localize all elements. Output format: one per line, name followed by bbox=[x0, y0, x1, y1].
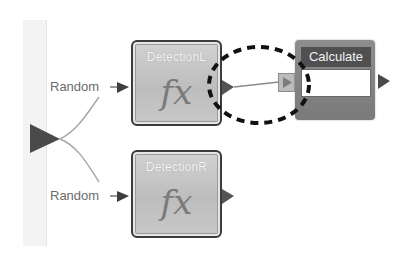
output-port-icon[interactable] bbox=[222, 189, 234, 204]
block-calculate[interactable]: Calculate bbox=[295, 40, 375, 120]
wire-lower bbox=[60, 139, 99, 182]
block-title: Calculate bbox=[301, 47, 371, 67]
input-arrow-icon bbox=[117, 82, 129, 93]
function-icon: fx bbox=[133, 182, 220, 222]
wire-upper bbox=[60, 97, 99, 139]
play-arrow-icon bbox=[283, 77, 292, 88]
block-title: DetectionL bbox=[133, 50, 220, 64]
calc-input-port[interactable] bbox=[278, 73, 295, 92]
calc-output-port-icon[interactable] bbox=[378, 74, 390, 89]
calculate-expression-field[interactable] bbox=[301, 69, 371, 97]
block-detection-l[interactable]: DetectionL fx bbox=[131, 40, 222, 126]
block-title: DetectionR bbox=[133, 160, 220, 174]
connection-line[interactable] bbox=[234, 82, 279, 87]
input-label: Random bbox=[50, 188, 99, 203]
function-icon: fx bbox=[133, 72, 220, 112]
split-port-icon[interactable] bbox=[30, 124, 60, 153]
block-detection-r[interactable]: DetectionR fx bbox=[131, 150, 222, 238]
input-label: Random bbox=[50, 79, 99, 94]
output-port-icon[interactable] bbox=[222, 80, 234, 95]
diagram-canvas: Random Random DetectionL fx DetectionR f… bbox=[0, 0, 414, 264]
input-arrow-icon bbox=[117, 191, 129, 202]
